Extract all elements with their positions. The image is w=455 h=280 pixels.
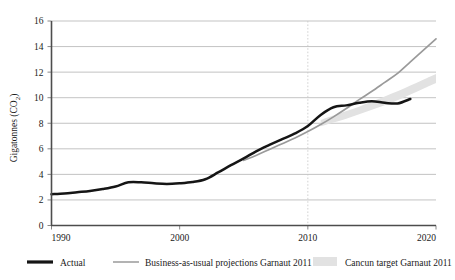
y-tick-label-14: 14	[34, 42, 44, 52]
y-tick-label-8: 8	[39, 119, 44, 129]
legend-label-actual: Actual	[60, 258, 86, 268]
emissions-line-chart: 0246810121416 1990200020102020 Gigatonne…	[0, 0, 455, 280]
x-tick-label-2010: 2010	[298, 233, 317, 243]
chart-container: 0246810121416 1990200020102020 Gigatonne…	[0, 0, 455, 280]
y-tick-label-2: 2	[39, 195, 44, 205]
legend-label-cancun-target: Cancun target Garnaut 2011	[345, 258, 452, 268]
x-tick-label-2000: 2000	[170, 233, 189, 243]
x-tick-label-1990: 1990	[52, 233, 71, 243]
y-tick-label-12: 12	[34, 68, 44, 78]
y-tick-label-10: 10	[34, 93, 44, 103]
legend-swatch-cancun-target	[313, 257, 337, 266]
y-tick-label-16: 16	[34, 16, 44, 26]
y-axis-title-tail: )	[9, 94, 20, 97]
legend-label-business-as-usual: Business-as-usual projections Garnaut 20…	[145, 258, 312, 268]
y-axis-title-main: Gigatonnes (CO	[9, 100, 20, 162]
x-tick-label-2020: 2020	[417, 233, 436, 243]
y-tick-label-6: 6	[39, 144, 44, 154]
y-tick-label-4: 4	[39, 170, 44, 180]
y-tick-label-0: 0	[39, 221, 44, 231]
